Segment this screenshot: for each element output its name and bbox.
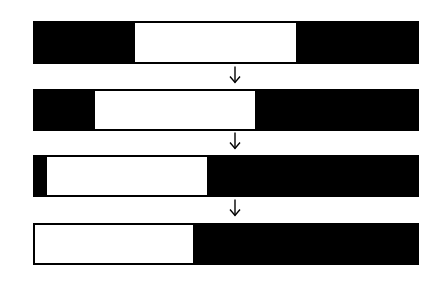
down-arrow-icon xyxy=(229,132,241,150)
white-window xyxy=(35,225,193,263)
bar-step-3 xyxy=(33,155,419,197)
bar-step-4 xyxy=(33,223,419,265)
down-arrow-icon xyxy=(229,199,241,217)
down-arrow-icon xyxy=(229,66,241,84)
white-window xyxy=(47,157,207,195)
white-window xyxy=(135,23,296,62)
white-window xyxy=(95,91,255,129)
bar-step-2 xyxy=(33,89,419,131)
bar-step-1 xyxy=(33,21,419,64)
